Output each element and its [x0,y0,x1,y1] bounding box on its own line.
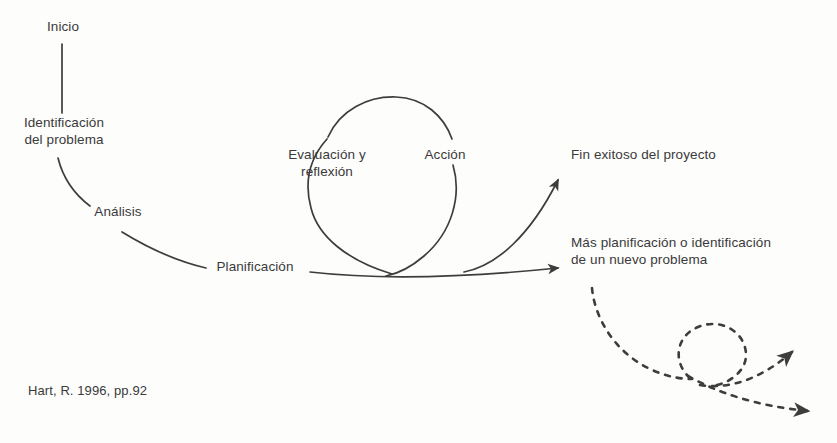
node-label-fin-exitoso-del-proyecto: Fin exitoso del proyecto [571,146,741,163]
node-label-planificacion: Planificación [205,258,305,275]
connector-loop-right-arc [386,165,456,276]
diagram-vector-layer [0,0,837,443]
node-label-analisis: Análisis [82,203,154,220]
node-label-inicio: Inicio [28,18,98,35]
node-label-evaluacion-y-reflexion: Evaluación y reflexión [275,146,379,180]
node-label-mas-planificacion-nuevo-problema: Más planificación o identificación de un… [571,234,819,268]
connector-identificacion-to-analisis [58,158,90,206]
connector-dashed-arrow-upper [700,352,792,386]
diagram-canvas-container: Inicio Identificación del problema Análi… [0,0,837,443]
connector-arrow-to-fin-exitoso [464,180,558,272]
source-citation: Hart, R. 1996, pp.92 [28,383,147,398]
connector-dashed-arrow-lower [688,376,808,411]
node-label-identificacion-del-problema: Identificación del problema [8,114,120,148]
connector-arrow-to-mas-planificacion [310,268,558,277]
node-label-accion: Acción [414,146,476,163]
connector-dashed-descending-stem [592,288,692,379]
connector-analisis-to-planificacion [122,232,206,268]
connector-loop-top-arc [328,97,452,139]
